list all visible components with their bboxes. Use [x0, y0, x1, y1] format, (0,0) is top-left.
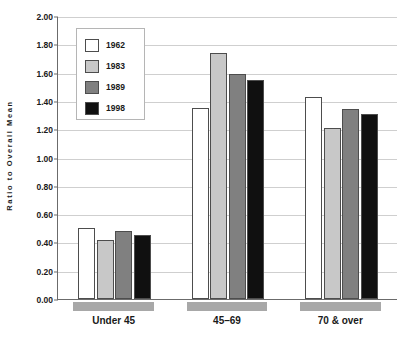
group-band [300, 302, 381, 311]
legend-item: 1989 [85, 77, 144, 97]
legend-item: 1962 [85, 35, 144, 55]
y-tick-label: 1.40 [36, 97, 53, 107]
y-tick-mark [54, 186, 58, 187]
y-tick-mark [54, 45, 58, 46]
bar [134, 235, 151, 299]
y-tick-mark [54, 130, 58, 131]
y-axis-title: Ratio to Overall Mean [0, 0, 18, 310]
bar [97, 240, 114, 299]
y-tick-mark [54, 300, 58, 301]
y-tick-label: 1.20 [36, 125, 53, 135]
bar [361, 114, 378, 299]
bar-group [192, 17, 265, 299]
y-tick-label: 1.00 [36, 154, 53, 164]
legend: 1962198319891998 [76, 28, 145, 120]
bar [229, 74, 246, 299]
y-tick-mark [54, 215, 58, 216]
y-tick-label: 1.80 [36, 40, 53, 50]
bar-group [305, 17, 378, 299]
y-tick-mark [54, 73, 58, 74]
group-band [187, 302, 268, 311]
legend-swatch [85, 60, 99, 73]
bar [78, 228, 95, 299]
y-tick-mark [54, 243, 58, 244]
legend-label: 1989 [106, 82, 125, 92]
legend-label: 1983 [106, 61, 125, 71]
y-tick-label: 0.40 [36, 238, 53, 248]
legend-swatch [85, 102, 99, 115]
group-band [73, 302, 154, 311]
legend-swatch [85, 81, 99, 94]
y-tick-label: 2.00 [36, 12, 53, 22]
category-label: 45–69 [170, 315, 283, 326]
bar [115, 231, 132, 299]
bar [324, 128, 341, 299]
legend-item: 1998 [85, 98, 144, 118]
y-tick-mark [54, 17, 58, 18]
legend-label: 1962 [106, 40, 125, 50]
y-tick-label: 0.60 [36, 210, 53, 220]
legend-swatch [85, 39, 99, 52]
bar [192, 108, 209, 299]
bar [210, 53, 227, 299]
category-label: 70 & over [284, 315, 397, 326]
y-tick-label: 0.80 [36, 182, 53, 192]
legend-item: 1983 [85, 56, 144, 76]
bar [247, 80, 264, 299]
y-tick-mark [54, 101, 58, 102]
y-tick-mark [54, 271, 58, 272]
category-label: Under 45 [57, 315, 170, 326]
y-tick-label: 0.20 [36, 267, 53, 277]
y-tick-label: 1.60 [36, 69, 53, 79]
bar [342, 109, 359, 299]
y-axis-title-text: Ratio to Overall Mean [5, 100, 14, 210]
bar-chart: Ratio to Overall Mean 2.001.801.601.401.… [0, 0, 404, 344]
bar [305, 97, 322, 299]
y-tick-mark [54, 158, 58, 159]
legend-label: 1998 [106, 103, 125, 113]
y-tick-label: 0.00 [36, 295, 53, 305]
